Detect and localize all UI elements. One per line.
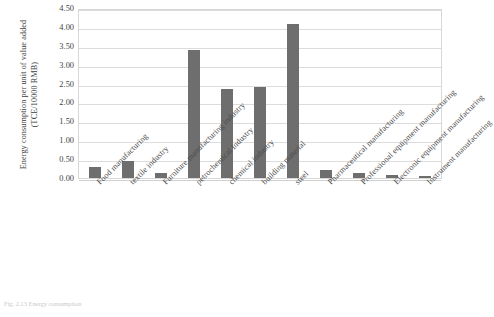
bar-slot (79, 10, 112, 178)
bar (221, 89, 233, 178)
bar-slot (309, 10, 342, 178)
y-axis-tick-label: 1.50 (44, 118, 74, 126)
y-axis-tick-label: 0.50 (44, 156, 74, 164)
y-axis-tick-label: 1.00 (44, 137, 74, 145)
y-axis-title: Energy consumption per unit of value add… (19, 0, 40, 190)
y-axis-tick-label: 3.00 (44, 61, 74, 69)
y-axis-tick-label: 4.00 (44, 24, 74, 32)
y-axis-tick-label: 3.50 (44, 43, 74, 51)
y-axis-tick-label: 2.50 (44, 80, 74, 88)
x-axis-tick-labels: Food manufacturingtextile industryFurnit… (78, 180, 442, 292)
y-axis-title-line2: (TCE/10000 RMB) (29, 0, 40, 190)
y-axis-tick-label: 0.00 (44, 175, 74, 183)
y-axis-tick-label: 2.00 (44, 99, 74, 107)
y-axis-tick-label: 4.50 (44, 5, 74, 13)
y-axis-tick-labels: 0.000.501.001.502.002.503.003.504.004.50 (44, 9, 74, 179)
figure-caption: Fig. 2.13 Energy consumption (4, 300, 81, 307)
bar (254, 87, 266, 178)
y-axis-title-line1: Energy consumption per unit of value add… (19, 20, 28, 170)
